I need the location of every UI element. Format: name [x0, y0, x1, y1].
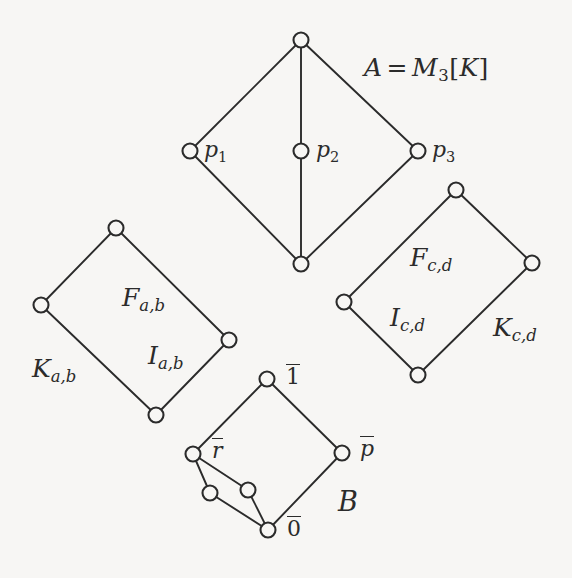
edge-b-one-r	[193, 379, 267, 454]
label-b-p-base: p	[360, 436, 374, 460]
node-a-p3[interactable]	[411, 144, 426, 159]
lattice-diagram-figure: A=M3[K] p1 p2 p3 Fa,b Ia,b Ka,b Fc,d Ic,…	[0, 0, 572, 578]
component-kab-edges	[41, 228, 229, 415]
label-b-one: 1	[286, 364, 300, 388]
label-f-cd-sub: c,d	[427, 256, 452, 275]
label-i-cd-base: I	[390, 303, 400, 332]
diagram-canvas	[0, 0, 572, 578]
label-f-cd-base: F	[410, 243, 427, 272]
edge-a-p3-bottom	[301, 151, 418, 264]
label-k-ab-base: K	[32, 354, 51, 383]
label-p1-sub: 1	[218, 149, 227, 165]
edge-b-one-p	[267, 379, 342, 453]
label-k-ab-sub: a,b	[51, 367, 77, 386]
node-a-bottom[interactable]	[294, 257, 309, 272]
node-kab-bottom[interactable]	[149, 408, 164, 423]
node-b-inner-right[interactable]	[241, 483, 256, 498]
label-b-r-base: r	[212, 438, 223, 462]
node-b-one[interactable]	[260, 372, 275, 387]
node-a-p1[interactable]	[183, 144, 198, 159]
label-a-lhs: A	[364, 53, 383, 82]
label-p2-sub: 2	[330, 149, 339, 165]
label-b-zero-base: 0	[287, 516, 301, 540]
node-kab-top[interactable]	[109, 221, 124, 236]
edge-kcd-top-right	[456, 190, 532, 263]
label-p2-base: p	[316, 137, 330, 162]
edge-b-p-zero	[268, 453, 342, 530]
label-b-r: r	[212, 438, 223, 462]
node-a-p2[interactable]	[294, 144, 309, 159]
label-b-name-base: B	[338, 486, 358, 517]
node-kcd-right[interactable]	[525, 256, 540, 271]
label-i-cd-sub: c,d	[400, 316, 425, 335]
label-p3-sub: 3	[446, 149, 455, 165]
label-k-cd: Kc,d	[493, 315, 537, 340]
node-b-inner-left[interactable]	[203, 486, 218, 501]
node-kcd-left[interactable]	[337, 295, 352, 310]
label-a-rhs-arg: K	[459, 53, 478, 82]
label-a-operator: =	[383, 53, 412, 82]
node-b-p[interactable]	[335, 446, 350, 461]
label-p1: p1	[204, 139, 227, 161]
node-kcd-bottom[interactable]	[411, 368, 426, 383]
edge-a-top-p1	[190, 40, 301, 151]
edge-kab-top-left	[41, 228, 116, 305]
component-kcd-nodes	[337, 183, 540, 383]
edge-a-p1-bottom	[190, 151, 301, 264]
label-a-rhs-sub: 3	[438, 66, 449, 85]
label-p3: p3	[432, 139, 455, 161]
label-k-cd-base: K	[493, 313, 512, 342]
label-a-bracket-close: ]	[479, 53, 489, 82]
component-kab-nodes	[34, 221, 237, 423]
label-a-rhs-base: M	[412, 53, 438, 82]
label-b-name: B	[338, 488, 358, 515]
node-b-zero[interactable]	[261, 523, 276, 538]
node-kab-left[interactable]	[34, 298, 49, 313]
label-f-ab-sub: a,b	[139, 296, 165, 315]
node-kab-right[interactable]	[222, 333, 237, 348]
label-f-ab: Fa,b	[122, 285, 165, 310]
label-i-ab-sub: a,b	[158, 354, 184, 373]
label-k-ab: Ka,b	[32, 356, 76, 381]
label-a-bracket-open: [	[449, 53, 459, 82]
label-f-cd: Fc,d	[410, 245, 452, 270]
node-a-top[interactable]	[294, 33, 309, 48]
node-kcd-top[interactable]	[449, 183, 464, 198]
component-kcd-edges	[344, 190, 532, 375]
label-b-one-base: 1	[286, 364, 300, 388]
label-a-equation: A=M3[K]	[364, 55, 489, 80]
label-b-p: p	[360, 436, 374, 460]
label-i-ab-base: I	[148, 341, 158, 370]
label-p1-base: p	[204, 137, 218, 162]
label-f-ab-base: F	[122, 283, 139, 312]
label-p2: p2	[316, 139, 339, 161]
label-i-ab: Ia,b	[148, 343, 184, 368]
component-b-nodes	[186, 372, 350, 538]
label-i-cd: Ic,d	[390, 305, 425, 330]
label-b-zero: 0	[287, 516, 301, 540]
label-p3-base: p	[432, 137, 446, 162]
node-b-r[interactable]	[186, 447, 201, 462]
label-k-cd-sub: c,d	[512, 326, 537, 345]
